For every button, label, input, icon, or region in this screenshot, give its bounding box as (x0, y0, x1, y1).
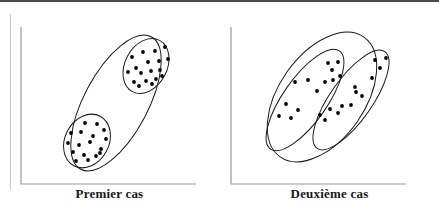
data-point (134, 66, 138, 70)
data-point (338, 74, 342, 78)
data-point (86, 158, 90, 162)
data-point (88, 140, 92, 144)
data-point (330, 68, 334, 72)
caption-premier-cas: Premier cas (0, 186, 219, 202)
data-point (82, 153, 86, 157)
data-point (331, 78, 335, 82)
data-point (154, 77, 158, 81)
data-point (370, 76, 374, 80)
data-point (77, 143, 81, 147)
data-point (74, 159, 78, 163)
data-point (166, 57, 170, 61)
data-point (289, 116, 293, 120)
axis-lines-left (21, 27, 196, 184)
data-point (98, 151, 102, 155)
data-point (130, 55, 134, 59)
diagram-deuxieme-cas (220, 0, 439, 186)
data-point (104, 137, 108, 141)
data-point (91, 134, 95, 138)
panel-deuxieme-cas: Deuxième cas (220, 0, 439, 220)
data-point (102, 128, 106, 132)
data-point (158, 68, 162, 72)
figure-container: Premier cas (0, 0, 439, 220)
data-point (153, 49, 157, 53)
data-point (99, 147, 103, 151)
data-point (139, 71, 143, 75)
left-cluster-ellipse-right (253, 38, 358, 162)
data-point (384, 56, 388, 60)
data-point (160, 74, 164, 78)
data-point (354, 90, 358, 94)
outer-ellipse-right (245, 13, 399, 182)
outer-ellipse-left (53, 22, 180, 184)
data-point (95, 122, 99, 126)
data-point (349, 103, 353, 107)
data-point (137, 84, 141, 88)
data-point (66, 141, 70, 145)
data-point (146, 60, 150, 64)
caption-deuxieme-cas: Deuxième cas (220, 186, 439, 202)
data-point (157, 59, 161, 63)
data-point (340, 104, 344, 108)
lower-cluster-ellipse-left (54, 106, 119, 176)
data-point (79, 130, 83, 134)
data-point (150, 82, 154, 86)
data-point (71, 150, 75, 154)
data-point (360, 94, 364, 98)
data-point (323, 118, 327, 122)
data-point (126, 70, 130, 74)
data-point (318, 113, 322, 117)
data-point (284, 102, 288, 106)
data-point (163, 45, 167, 49)
data-point (149, 69, 153, 73)
data-point (373, 58, 377, 62)
data-point (277, 114, 281, 118)
data-point (336, 60, 340, 64)
data-point (315, 89, 319, 93)
data-points-left (66, 45, 170, 163)
panel-premier-cas: Premier cas (0, 0, 219, 220)
data-point (323, 80, 327, 84)
data-point (326, 61, 330, 65)
data-point (141, 50, 145, 54)
data-point (83, 121, 87, 125)
data-point (353, 85, 357, 89)
upper-cluster-ellipse-left (114, 31, 178, 102)
data-point (144, 79, 148, 83)
data-point (306, 78, 310, 82)
data-point (293, 80, 297, 84)
axis-path-left (21, 27, 196, 184)
data-point (328, 107, 332, 111)
data-point (296, 108, 300, 112)
diagram-premier-cas (0, 0, 219, 186)
data-point (378, 66, 382, 70)
data-point (336, 111, 340, 115)
data-point (94, 154, 98, 158)
data-point (132, 80, 136, 84)
data-point (69, 131, 73, 135)
